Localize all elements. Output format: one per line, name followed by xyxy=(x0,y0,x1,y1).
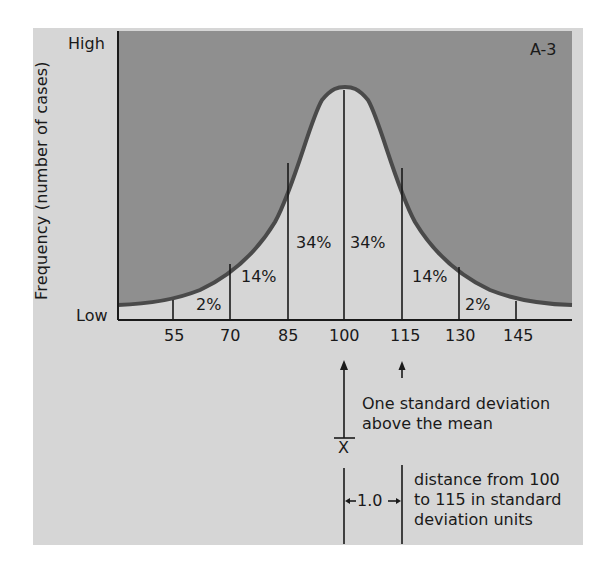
sd-annotation-line-2: above the mean xyxy=(362,414,550,434)
tick-70: 70 xyxy=(220,328,240,344)
y-axis-title: Frequency (number of cases) xyxy=(32,61,51,300)
tick-85: 85 xyxy=(278,328,298,344)
pct-115-130: 14% xyxy=(412,269,448,285)
tick-100: 100 xyxy=(329,328,360,344)
mean-symbol: X xyxy=(338,440,349,456)
figure-id: A-3 xyxy=(530,42,557,58)
tick-115: 115 xyxy=(390,328,421,344)
distance-annotation-line-3: deviation units xyxy=(414,510,561,530)
pct-85-100: 34% xyxy=(296,235,332,251)
sd-arrow xyxy=(399,361,406,378)
pct-100-115: 34% xyxy=(350,235,386,251)
distance-annotation-line-2: to 115 in standard xyxy=(414,490,561,510)
tick-145: 145 xyxy=(503,328,534,344)
distance-annotation: distance from 100 to 115 in standard dev… xyxy=(414,470,561,530)
pct-130-145: 2% xyxy=(465,297,490,313)
distance-annotation-line-1: distance from 100 xyxy=(414,470,561,490)
tick-55: 55 xyxy=(164,328,184,344)
sd-annotation: One standard deviation above the mean xyxy=(362,394,550,434)
tick-130: 130 xyxy=(445,328,476,344)
pct-55-70: 2% xyxy=(196,297,221,313)
y-low-label: Low xyxy=(76,308,108,324)
distance-marker: 1.0 xyxy=(357,493,382,509)
mean-arrow xyxy=(340,360,348,438)
pct-70-85: 14% xyxy=(241,269,277,285)
y-high-label: High xyxy=(68,36,105,52)
sd-annotation-line-1: One standard deviation xyxy=(362,394,550,414)
